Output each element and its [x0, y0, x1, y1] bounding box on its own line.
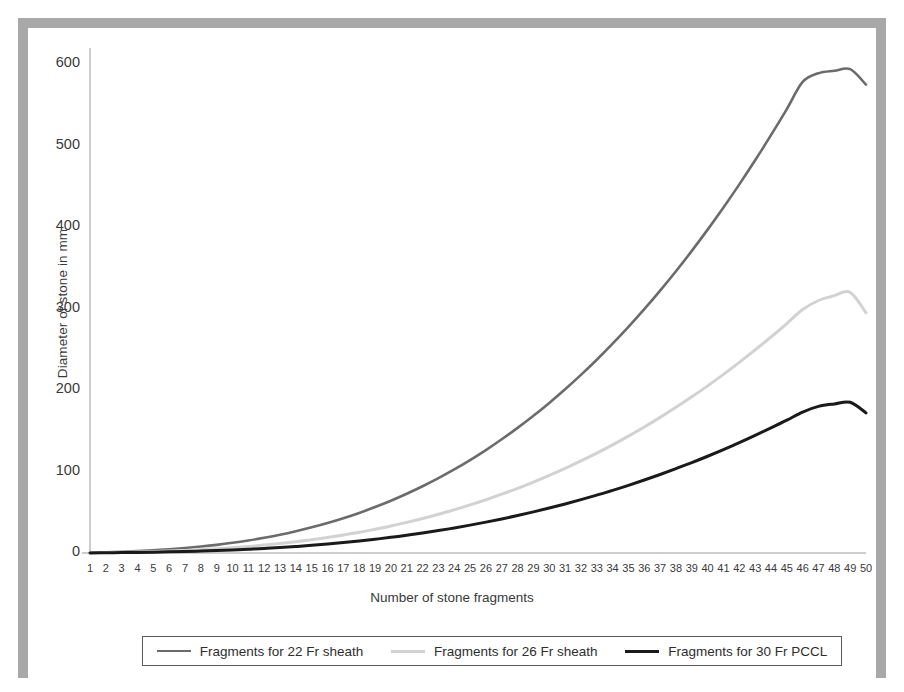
page-border-right [876, 18, 886, 678]
legend-line-swatch [157, 650, 191, 652]
chart-plot-area: Diameter of stone in mm Number of stone … [28, 28, 876, 678]
legend-label: Fragments for 26 Fr sheath [434, 644, 598, 659]
legend-label: Fragments for 22 Fr sheath [200, 644, 364, 659]
series-line [90, 68, 866, 552]
figure-page: Diameter of stone in mm Number of stone … [0, 0, 904, 692]
chart-canvas [28, 28, 876, 588]
page-border-top [18, 18, 886, 28]
legend-entry: Fragments for 30 Fr PCCL [625, 644, 827, 659]
chart-legend: Fragments for 22 Fr sheathFragments for … [142, 636, 842, 666]
legend-label: Fragments for 30 Fr PCCL [668, 644, 827, 659]
data-series-layer [90, 68, 866, 553]
page-border-left [18, 18, 28, 678]
legend-line-swatch [625, 650, 659, 653]
series-line [90, 402, 866, 553]
legend-entry: Fragments for 26 Fr sheath [391, 644, 598, 659]
series-line [90, 291, 866, 552]
legend-line-swatch [391, 650, 425, 653]
axis-lines [82, 48, 866, 553]
x-axis-title: Number of stone fragments [28, 590, 876, 605]
legend-entry: Fragments for 22 Fr sheath [157, 644, 364, 659]
